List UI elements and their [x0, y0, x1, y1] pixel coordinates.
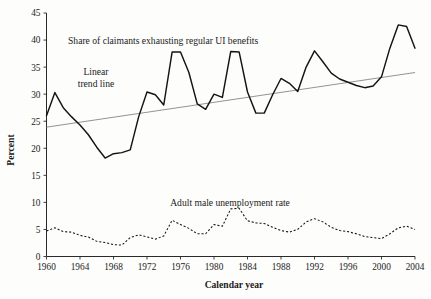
y-tick-label: 10	[31, 198, 41, 208]
y-tick-label: 0	[36, 252, 41, 262]
annotation-unemployment-label: Adult male unemployment rate	[170, 197, 290, 208]
y-tick-label: 25	[31, 117, 41, 127]
y-axis-title: Percent	[5, 134, 16, 166]
annotation-trend-label-line2: trend line	[78, 78, 115, 89]
annotation-trend-label-line1: Linear	[83, 66, 109, 77]
annotation-ui-series-label: Share of claimants exhausting regular UI…	[68, 35, 258, 46]
y-tick-label: 35	[31, 63, 41, 73]
x-tick-label: 2000	[372, 262, 391, 272]
y-axis-ticks: 051015202530354045	[31, 8, 46, 262]
x-tick-label: 1996	[339, 262, 358, 272]
x-tick-label: 1988	[272, 262, 291, 272]
y-tick-label: 30	[31, 90, 41, 100]
x-tick-label: 1984	[238, 262, 257, 272]
y-tick-label: 40	[31, 35, 41, 45]
y-tick-label: 5	[36, 225, 41, 235]
x-tick-label: 1968	[104, 262, 123, 272]
series-adult-male-unemployment	[47, 208, 416, 245]
line-chart: 051015202530354045 196019641968197219761…	[0, 0, 431, 299]
x-axis-ticks: 1960196419681972197619801984198819921996…	[37, 257, 424, 273]
x-tick-label: 1976	[171, 262, 190, 272]
x-tick-label: 2004	[406, 262, 425, 272]
x-axis-title: Calendar year	[205, 279, 264, 290]
y-tick-label: 20	[31, 144, 41, 154]
x-tick-label: 1964	[71, 262, 90, 272]
x-tick-label: 1980	[205, 262, 224, 272]
x-tick-label: 1992	[305, 262, 324, 272]
x-tick-label: 1972	[138, 262, 157, 272]
y-tick-label: 45	[31, 8, 41, 18]
chart-container: 051015202530354045 196019641968197219761…	[0, 0, 431, 299]
x-tick-label: 1960	[37, 262, 56, 272]
y-tick-label: 15	[31, 171, 41, 181]
